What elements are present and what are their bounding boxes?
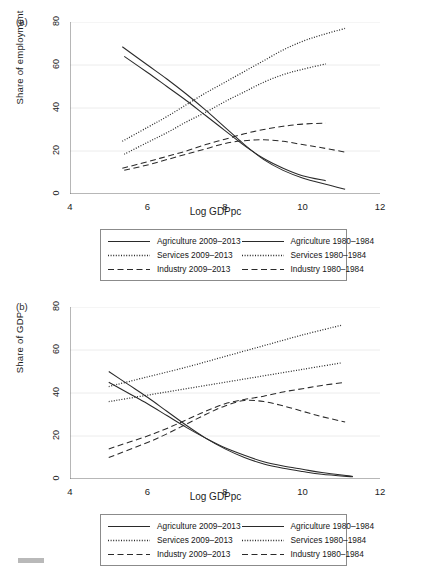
legend-item[interactable]: Industry 2009–2013 <box>107 265 241 274</box>
panel-b-x-axis-label: Log GDPpc <box>0 491 431 502</box>
legend-key-dashed-icon <box>241 550 285 559</box>
y-tick-label: 0 <box>51 185 61 201</box>
legend-key-solid-icon <box>107 522 151 531</box>
y-tick-label: 80 <box>51 298 61 314</box>
panel-a-plot-area <box>70 22 380 194</box>
legend-item[interactable]: Agriculture 1980–1984 <box>241 522 375 531</box>
legend-label: Industry 2009–2013 <box>157 550 230 558</box>
legend-item[interactable]: Agriculture 2009–2013 <box>107 237 241 246</box>
legend-key-dashed-icon <box>107 265 151 274</box>
legend-item[interactable]: Services 1980–1984 <box>241 251 375 260</box>
legend-label: Services 1980–1984 <box>291 251 367 259</box>
panel-b-legend: Agriculture 2009–2013Agriculture 1980–19… <box>100 514 347 566</box>
legend-label: Services 2009–2013 <box>157 536 233 544</box>
series-line <box>122 47 345 190</box>
panel-a-y-axis-label: Share of employment <box>14 0 25 123</box>
y-tick-label: 80 <box>51 13 61 29</box>
panel-a-chart-svg <box>70 22 380 194</box>
series-line <box>109 382 345 449</box>
panel-a: (a) Share of employment 020406080 468101… <box>0 0 431 285</box>
legend-label: Industry 2009–2013 <box>157 265 230 273</box>
y-tick-label: 40 <box>51 99 61 115</box>
panel-b-chart-svg <box>70 307 380 479</box>
series-line <box>124 140 345 171</box>
legend-label: Agriculture 1980–1984 <box>291 522 375 530</box>
series-line <box>124 56 326 180</box>
legend-label: Agriculture 2009–2013 <box>157 522 241 530</box>
legend-item[interactable]: Services 1980–1984 <box>241 536 375 545</box>
legend-item[interactable]: Industry 1980–1984 <box>241 550 375 559</box>
legend-key-dotted-icon <box>107 536 151 545</box>
panel-b: (b) Share of GDP 020406080 4681012 Log G… <box>0 285 431 570</box>
y-tick-label: 20 <box>51 142 61 158</box>
footer-mark <box>18 558 44 563</box>
legend-item[interactable]: Services 2009–2013 <box>107 251 241 260</box>
legend-item[interactable]: Industry 2009–2013 <box>107 550 241 559</box>
legend-item[interactable]: Services 2009–2013 <box>107 536 241 545</box>
legend-item[interactable]: Agriculture 2009–2013 <box>107 522 241 531</box>
legend-key-dotted-icon <box>107 251 151 260</box>
legend-item[interactable]: Agriculture 1980–1984 <box>241 237 375 246</box>
panel-b-y-axis-label: Share of GDP <box>14 278 25 408</box>
series-line <box>109 372 353 477</box>
legend-item[interactable]: Industry 1980–1984 <box>241 265 375 274</box>
legend-key-solid-icon <box>241 237 285 246</box>
legend-key-dotted-icon <box>241 251 285 260</box>
series-line <box>109 363 342 402</box>
legend-key-solid-icon <box>107 237 151 246</box>
legend-key-dashed-icon <box>107 550 151 559</box>
panel-b-plot-area <box>70 307 380 479</box>
legend-key-dotted-icon <box>241 536 285 545</box>
legend-key-dashed-icon <box>241 265 285 274</box>
panel-a-legend: Agriculture 2009–2013Agriculture 1980–19… <box>100 229 347 281</box>
legend-label: Agriculture 1980–1984 <box>291 237 375 245</box>
series-line <box>109 325 342 386</box>
y-tick-label: 60 <box>51 56 61 72</box>
y-tick-label: 0 <box>51 470 61 486</box>
y-tick-label: 20 <box>51 427 61 443</box>
panel-a-x-axis-label: Log GDPpc <box>0 206 431 217</box>
legend-label: Industry 1980–1984 <box>291 265 364 273</box>
legend-label: Services 2009–2013 <box>157 251 233 259</box>
series-line <box>122 28 345 141</box>
y-tick-label: 40 <box>51 384 61 400</box>
legend-key-solid-icon <box>241 522 285 531</box>
legend-label: Industry 1980–1984 <box>291 550 364 558</box>
legend-label: Services 1980–1984 <box>291 536 367 544</box>
legend-label: Agriculture 2009–2013 <box>157 237 241 245</box>
y-tick-label: 60 <box>51 341 61 357</box>
